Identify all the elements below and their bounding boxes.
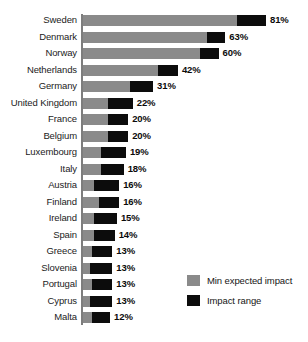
- bar-row: Sweden81%: [0, 14, 308, 31]
- category-label: Germany: [0, 80, 77, 91]
- category-label: Belgium: [0, 130, 77, 141]
- bar-value-label: 13%: [116, 278, 135, 289]
- bar-segment-impact-range: [94, 230, 114, 241]
- bar-value-label: 81%: [270, 14, 289, 25]
- bar-row: Finland16%: [0, 196, 308, 213]
- bar-segment-impact-range: [90, 296, 113, 307]
- bar-segment-impact-range: [101, 164, 124, 175]
- bar-segment-min-expected-impact: [83, 164, 101, 175]
- bar-segment-impact-range: [92, 312, 110, 323]
- bar-value-label: 63%: [229, 31, 248, 42]
- bar-value-label: 14%: [119, 229, 138, 240]
- stacked-bar: [83, 312, 110, 323]
- bar-segment-impact-range: [90, 263, 113, 274]
- bar-row: Belgium20%: [0, 130, 308, 147]
- bar-segment-min-expected-impact: [83, 15, 237, 26]
- stacked-bar: [83, 114, 128, 125]
- bar-segment-min-expected-impact: [83, 312, 92, 323]
- stacked-bar: [83, 147, 126, 158]
- category-label: Italy: [0, 163, 77, 174]
- stacked-bar: [83, 230, 115, 241]
- stacked-bar: [83, 65, 178, 76]
- bar-row: France20%: [0, 113, 308, 130]
- bar-segment-min-expected-impact: [83, 65, 158, 76]
- bar-segment-impact-range: [158, 65, 178, 76]
- category-label: Cyprus: [0, 295, 77, 306]
- bar-row: Italy18%: [0, 163, 308, 180]
- bar-row: Austria16%: [0, 179, 308, 196]
- bar-segment-min-expected-impact: [83, 263, 90, 274]
- legend-item-min-expected-impact: Min expected impact: [187, 272, 305, 289]
- stacked-bar: [83, 32, 225, 43]
- bar-value-label: 20%: [132, 130, 151, 141]
- bar-value-label: 22%: [137, 97, 156, 108]
- bar-segment-min-expected-impact: [83, 147, 101, 158]
- category-label: Spain: [0, 229, 77, 240]
- stacked-bar: [83, 164, 124, 175]
- category-label: Netherlands: [0, 64, 77, 75]
- bar-value-label: 13%: [116, 295, 135, 306]
- bar-value-label: 16%: [123, 179, 142, 190]
- bar-segment-min-expected-impact: [83, 180, 94, 191]
- stacked-bar: [83, 213, 117, 224]
- bar-segment-min-expected-impact: [83, 98, 108, 109]
- bar-segment-impact-range: [94, 213, 117, 224]
- legend-label-min-expected-impact: Min expected impact: [207, 275, 292, 286]
- bar-row: Luxembourg19%: [0, 146, 308, 163]
- category-label: Sweden: [0, 14, 77, 25]
- stacked-bar: [83, 131, 128, 142]
- bar-value-label: 20%: [132, 113, 151, 124]
- stacked-bar: [83, 296, 112, 307]
- bar-row: Greece13%: [0, 245, 308, 262]
- category-label: Ireland: [0, 212, 77, 223]
- category-label: Austria: [0, 179, 77, 190]
- bar-segment-impact-range: [108, 131, 128, 142]
- category-label: Malta: [0, 311, 77, 322]
- category-label: United Kingdom: [0, 97, 77, 108]
- bar-segment-impact-range: [130, 81, 153, 92]
- legend-label-impact-range: Impact range: [207, 295, 261, 306]
- category-label: France: [0, 113, 77, 124]
- bar-segment-min-expected-impact: [83, 48, 200, 59]
- bar-row: Netherlands42%: [0, 64, 308, 81]
- bar-segment-min-expected-impact: [83, 81, 130, 92]
- bar-segment-min-expected-impact: [83, 279, 92, 290]
- bar-segment-impact-range: [108, 114, 128, 125]
- bar-segment-impact-range: [92, 279, 112, 290]
- category-label: Finland: [0, 196, 77, 207]
- bar-value-label: 18%: [128, 163, 147, 174]
- bar-value-label: 13%: [116, 262, 135, 273]
- bar-segment-impact-range: [108, 98, 133, 109]
- stacked-bar: [83, 48, 219, 59]
- bar-segment-impact-range: [101, 147, 126, 158]
- bar-segment-impact-range: [99, 197, 119, 208]
- bar-segment-min-expected-impact: [83, 197, 99, 208]
- chart-legend: Min expected impact Impact range: [187, 272, 305, 312]
- stacked-bar: [83, 15, 266, 26]
- legend-swatch-icon-impact-range: [187, 295, 200, 306]
- bar-segment-min-expected-impact: [83, 213, 94, 224]
- bar-row: United Kingdom22%: [0, 97, 308, 114]
- stacked-bar: [83, 180, 119, 191]
- stacked-bar: [83, 279, 112, 290]
- category-label: Portugal: [0, 278, 77, 289]
- bar-segment-min-expected-impact: [83, 114, 108, 125]
- bar-segment-impact-range: [237, 15, 266, 26]
- category-label: Luxembourg: [0, 146, 77, 157]
- bar-value-label: 19%: [130, 146, 149, 157]
- legend-swatch-icon-min-expected-impact: [187, 275, 200, 286]
- bar-value-label: 13%: [116, 245, 135, 256]
- bar-value-label: 42%: [182, 64, 201, 75]
- stacked-bar: [83, 246, 112, 257]
- bar-chart: Sweden81%Denmark63%Norway60%Netherlands4…: [0, 0, 308, 342]
- bar-segment-min-expected-impact: [83, 296, 90, 307]
- bar-segment-min-expected-impact: [83, 131, 108, 142]
- bar-segment-impact-range: [200, 48, 218, 59]
- bar-segment-min-expected-impact: [83, 230, 94, 241]
- category-label: Denmark: [0, 31, 77, 42]
- bar-segment-impact-range: [92, 246, 112, 257]
- stacked-bar: [83, 197, 119, 208]
- category-label: Norway: [0, 47, 77, 58]
- bar-row: Norway60%: [0, 47, 308, 64]
- category-label: Slovenia: [0, 262, 77, 273]
